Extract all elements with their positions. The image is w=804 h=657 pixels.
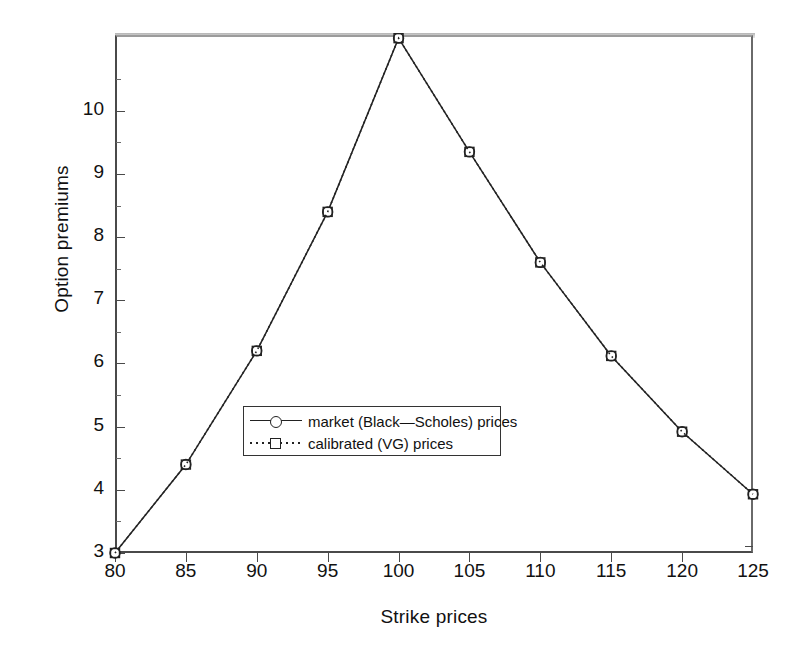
legend-entry-calibrated: calibrated (VG) prices <box>250 432 494 454</box>
data-point-calibrated <box>536 258 545 267</box>
top-clip-mask <box>0 0 804 33</box>
series-line-calibrated <box>115 38 753 553</box>
data-point-calibrated <box>323 207 332 216</box>
square-icon <box>270 438 281 449</box>
legend-label-calibrated: calibrated (VG) prices <box>302 435 453 452</box>
series-line-market <box>115 38 753 553</box>
chart-figure: Option premiums Strike prices 8085909510… <box>0 0 804 657</box>
data-point-calibrated <box>252 346 261 355</box>
legend-entry-market: market (Black—Scholes) prices <box>250 410 494 432</box>
legend-marker-calibrated <box>250 436 302 450</box>
data-point-calibrated <box>394 34 403 43</box>
circle-icon <box>270 416 282 428</box>
data-point-calibrated <box>678 427 687 436</box>
data-point-calibrated <box>749 490 758 499</box>
data-point-calibrated <box>465 147 474 156</box>
legend: market (Black—Scholes) prices calibrated… <box>243 406 501 456</box>
legend-label-market: market (Black—Scholes) prices <box>302 413 517 430</box>
legend-marker-market <box>250 414 302 428</box>
chart-series-layer <box>0 0 804 657</box>
data-point-calibrated <box>111 549 120 558</box>
data-point-calibrated <box>181 460 190 469</box>
data-point-calibrated <box>607 351 616 360</box>
